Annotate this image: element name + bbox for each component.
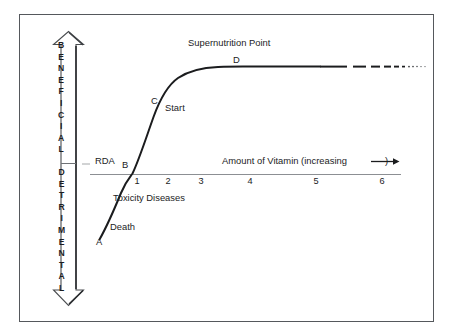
vitamin-response-curve — [100, 67, 321, 240]
letter: E — [59, 237, 65, 249]
start-label: Start — [165, 103, 185, 112]
letter: F — [58, 86, 63, 98]
letter: E — [58, 52, 64, 64]
curve-extrapolation-dot-1 — [408, 66, 410, 68]
x-axis-title-suffix: ) — [385, 155, 388, 166]
death-label: Death — [110, 222, 135, 231]
letter: C — [58, 110, 64, 122]
letter: E — [58, 75, 64, 87]
diagram-graphics — [0, 0, 452, 335]
point-a-label: A — [96, 237, 102, 246]
letter: I — [60, 98, 63, 110]
letter: I — [60, 121, 63, 133]
curve-extrapolation-dot-2 — [412, 66, 414, 68]
figure-canvas: B E N E F I C I A L D E T R I M E N T A … — [0, 0, 452, 335]
letter: I — [60, 213, 63, 225]
x-tick-3: 3 — [198, 176, 203, 186]
point-b-label: B — [122, 160, 128, 169]
beneficial-axis-label: B E N E F I C I A L — [58, 40, 64, 156]
letter: A — [58, 271, 64, 283]
letter: R — [58, 202, 64, 214]
curve-extrapolation-dot-3 — [416, 66, 418, 68]
point-d-label: D — [233, 55, 240, 64]
x-axis-title: Amount of Vitamin (increasing) — [222, 156, 388, 165]
toxicity-diseases-label: Toxicity Diseases — [113, 193, 185, 202]
letter: T — [59, 190, 64, 202]
x-tick-4: 4 — [247, 176, 252, 186]
letter: L — [58, 144, 63, 156]
letter: M — [58, 225, 65, 237]
curve-extrapolation-dot-5 — [424, 66, 425, 67]
letter: B — [58, 40, 64, 52]
point-c-label: C — [151, 96, 158, 105]
letter: T — [59, 260, 64, 272]
supernutrition-point-label: Supernutrition Point — [188, 38, 270, 47]
letter: A — [58, 133, 64, 145]
letter: N — [58, 63, 64, 75]
x-axis-title-text: Amount of Vitamin (increasing — [222, 155, 347, 166]
x-axis-tick-labels: 1 2 3 4 5 6 — [0, 176, 452, 190]
curve-extrapolation-dot-4 — [420, 66, 421, 67]
letter: L — [59, 283, 64, 295]
x-tick-1: 1 — [134, 176, 139, 186]
x-tick-6: 6 — [379, 176, 384, 186]
x-tick-5: 5 — [313, 176, 318, 186]
x-tick-2: 2 — [165, 176, 170, 186]
rda-label: RDA — [95, 156, 115, 165]
letter: N — [58, 248, 64, 260]
